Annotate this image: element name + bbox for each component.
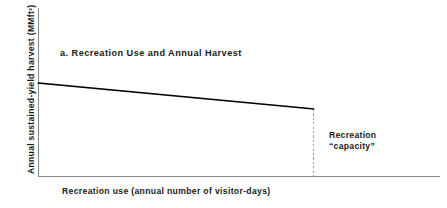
chart-plot-area	[0, 0, 447, 208]
recreation-capacity-annotation-line2: “capacity”	[329, 141, 409, 152]
recreation-capacity-annotation-line1: Recreation	[329, 130, 409, 141]
sustained-yield-harvest-line	[39, 83, 314, 109]
chart-figure: a. Recreation Use and Annual Harvest Ann…	[0, 0, 447, 208]
x-axis-label: Recreation use (annual number of visitor…	[62, 186, 271, 196]
chart-title: a. Recreation Use and Annual Harvest	[60, 48, 242, 58]
y-axis-label: Annual sustained-yield harvest (MMft³)	[26, 4, 40, 174]
recreation-capacity-annotation: Recreation “capacity”	[329, 130, 409, 151]
